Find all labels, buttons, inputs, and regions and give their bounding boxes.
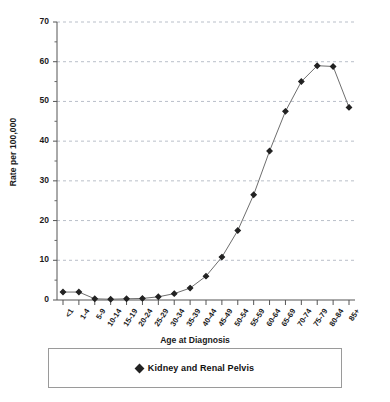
legend-entry-label: Kidney and Renal Pelvis [148,363,254,373]
gridlines [57,22,355,260]
axis-lines [57,22,355,300]
y-axis-tick-marks [53,22,57,300]
series-line-kidney-and-renal-pelvis [63,66,349,300]
chart-container: Rate per 100,000 010203040506070 <11-45-… [0,0,390,402]
diamond-marker-icon [134,363,144,373]
x-axis-tick-marks [63,300,349,305]
legend: Kidney and Renal Pelvis [48,348,342,388]
legend-entry: Kidney and Renal Pelvis [49,349,341,387]
x-axis-title: Age at Diagnosis [0,335,390,345]
series-markers [60,63,351,302]
